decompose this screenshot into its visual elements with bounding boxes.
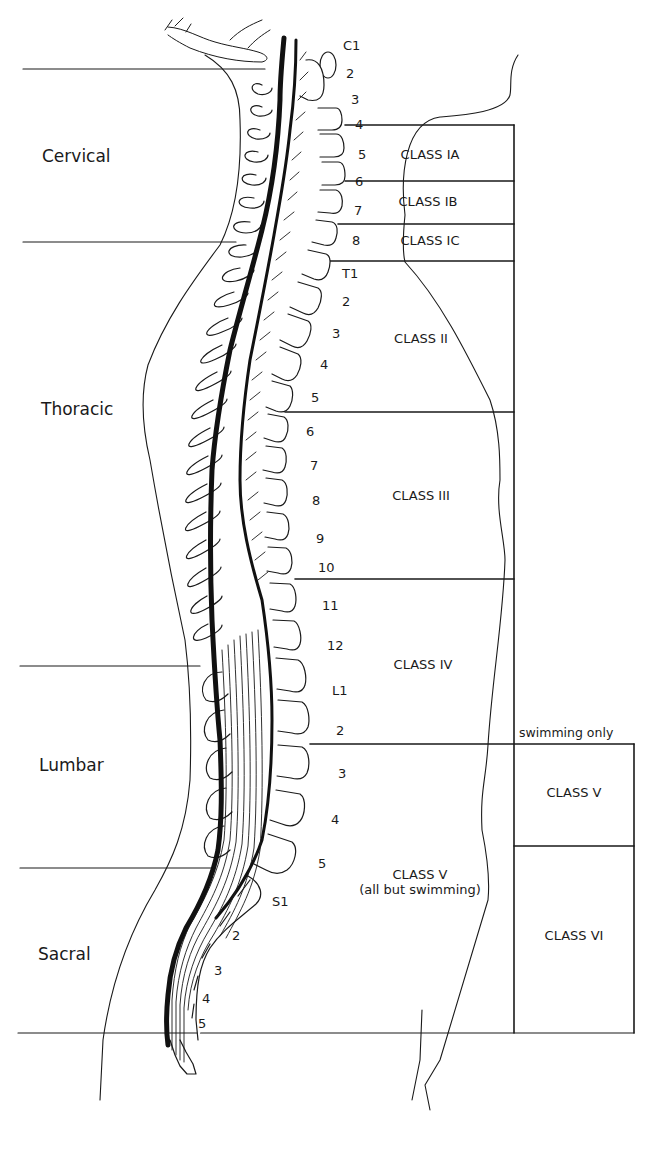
class-label-ia: CLASS IA xyxy=(386,148,474,163)
vertebra-label-l3: 3 xyxy=(338,767,346,780)
skull-base xyxy=(165,18,270,62)
vertebra-label-t10: 10 xyxy=(318,561,335,574)
vertebra-label-t6: 6 xyxy=(306,425,314,438)
class-label-ii: CLASS II xyxy=(377,332,465,347)
vertebra-label-c8: 8 xyxy=(352,234,360,247)
vertebra-label-c2: 2 xyxy=(346,67,354,80)
vertebra-label-l4: 4 xyxy=(331,813,339,826)
vertebra-label-t8: 8 xyxy=(312,494,320,507)
swimming-only-header: swimming only xyxy=(519,725,613,740)
vertebra-label-s1: S1 xyxy=(272,895,289,908)
class-label-iv: CLASS IV xyxy=(379,658,467,673)
body-outline xyxy=(100,55,518,1110)
vertebra-label-l1: L1 xyxy=(332,684,348,697)
spine-illustration xyxy=(0,0,650,1160)
class-label-v-title: CLASS V xyxy=(345,868,495,883)
vertebra-label-s2: 2 xyxy=(232,929,240,942)
vertebra-label-l2: 2 xyxy=(336,724,344,737)
vertebra-label-c3: 3 xyxy=(351,93,359,106)
vertebra-label-s3: 3 xyxy=(214,964,222,977)
class-label-iii: CLASS III xyxy=(377,489,465,504)
vertebra-label-t9: 9 xyxy=(316,532,324,545)
vertebra-label-t1: T1 xyxy=(342,267,358,280)
vertebra-label-s5: 5 xyxy=(198,1017,206,1030)
vertebra-label-c4: 4 xyxy=(355,118,363,131)
vertebra-label-s4: 4 xyxy=(202,992,210,1005)
vertebra-label-t2: 2 xyxy=(342,295,350,308)
vertebra-label-t7: 7 xyxy=(310,459,318,472)
region-label-cervical: Cervical xyxy=(42,146,111,166)
class-label-v-swimming: CLASS V xyxy=(514,786,634,801)
class-label-v-all-but-swimming: CLASS V (all but swimming) xyxy=(345,868,495,898)
vertebra-label-l5: 5 xyxy=(318,857,326,870)
vertebra-label-c5: 5 xyxy=(358,148,366,161)
spinous-processes xyxy=(185,84,272,858)
vertebra-label-t5: 5 xyxy=(311,391,319,404)
class-label-v-subtitle: (all but swimming) xyxy=(345,883,495,898)
spine-classification-diagram: Cervical Thoracic Lumbar Sacral C1 2 3 4… xyxy=(0,0,650,1160)
class-label-ic: CLASS IC xyxy=(386,234,474,249)
vertebra-label-c1: C1 xyxy=(343,39,360,52)
region-divider-lines xyxy=(18,69,634,1033)
class-label-vi: CLASS VI xyxy=(514,929,634,944)
vertebra-label-t12: 12 xyxy=(327,639,344,652)
region-label-lumbar: Lumbar xyxy=(39,755,104,775)
vertebra-label-t3: 3 xyxy=(332,327,340,340)
vertebra-label-t4: 4 xyxy=(320,358,328,371)
vertebra-label-t11: 11 xyxy=(322,599,339,612)
region-label-sacral: Sacral xyxy=(38,944,91,964)
vertebra-label-c6: 6 xyxy=(355,175,363,188)
vertebra-label-c7: 7 xyxy=(354,204,362,217)
region-label-thoracic: Thoracic xyxy=(41,399,113,419)
class-label-ib: CLASS IB xyxy=(384,195,472,210)
